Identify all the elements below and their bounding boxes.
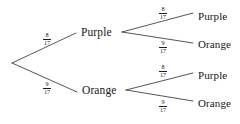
fraction-numerator: 8 xyxy=(159,64,167,71)
node-orange-orange: Orange xyxy=(198,98,231,109)
node-orange-stage1: Orange xyxy=(82,85,116,96)
fraction-denominator: 17 xyxy=(159,48,167,55)
fraction-denominator: 17 xyxy=(159,72,167,79)
probability-root-orange: 9 17 xyxy=(43,81,51,96)
fraction-denominator: 17 xyxy=(43,40,51,47)
fraction-denominator: 17 xyxy=(159,14,167,21)
fraction-numerator: 9 xyxy=(159,99,167,106)
node-purple-orange: Orange xyxy=(198,39,231,50)
probability-orange-purple: 8 17 xyxy=(159,64,167,79)
fraction-denominator: 17 xyxy=(43,89,51,96)
node-purple-stage1: Purple xyxy=(81,27,112,38)
edge-purple-to-purple xyxy=(122,13,193,32)
probability-purple-orange: 9 17 xyxy=(159,40,167,55)
fraction-numerator: 9 xyxy=(159,40,167,47)
fraction-denominator: 17 xyxy=(159,107,167,114)
node-orange-purple: Purple xyxy=(198,70,227,81)
node-purple-purple: Purple xyxy=(198,11,227,22)
probability-orange-orange: 9 17 xyxy=(159,99,167,114)
fraction-numerator: 8 xyxy=(159,6,167,13)
probability-purple-purple: 8 17 xyxy=(159,6,167,21)
fraction-numerator: 9 xyxy=(43,81,51,88)
probability-root-purple: 8 17 xyxy=(43,32,51,47)
fraction-numerator: 8 xyxy=(43,32,51,39)
probability-tree-diagram: Purple Orange Purple Orange Purple Orang… xyxy=(0,0,240,124)
edge-purple-to-orange xyxy=(122,32,193,43)
